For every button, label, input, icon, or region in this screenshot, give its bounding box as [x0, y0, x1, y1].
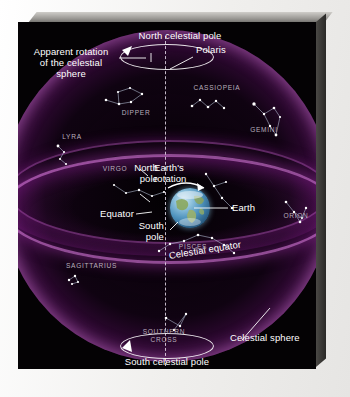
figure-root: Apparent rotation of the celestial spher… — [0, 0, 350, 397]
label-earth: Earth — [232, 202, 255, 213]
constellation-label-cassiopeia: CASSIOPEIA — [186, 84, 248, 92]
label-equator: Equator — [72, 208, 134, 219]
constellation-label-lyra: LYRA — [52, 133, 92, 141]
constellation-label-southern-cross: SOUTHERN CROSS — [132, 328, 196, 344]
label-south-celestial-pole: South celestial pole — [82, 356, 252, 367]
label-polaris: Polaris — [196, 44, 226, 55]
constellation-label-orion: ORION — [276, 212, 316, 220]
label-earths-rotation: Earth's rotation — [154, 162, 214, 184]
diagram-panel: Apparent rotation of the celestial spher… — [18, 22, 316, 369]
label-north-celestial-pole: North celestial pole — [110, 30, 250, 41]
frame-bevel-right — [316, 14, 326, 367]
constellation-label-virgo: VIRGO — [94, 165, 136, 173]
constellation-label-pisces: PISCES — [170, 243, 216, 251]
constellation-label-gemini: GEMINI — [242, 126, 286, 134]
label-south-pole: South pole — [110, 220, 164, 242]
label-apparent-rotation: Apparent rotation of the celestial spher… — [22, 46, 120, 79]
constellation-label-dipper: DIPPER — [112, 109, 160, 117]
constellation-label-sagittarius: SAGITTARIUS — [66, 262, 142, 270]
label-celestial-sphere: Celestial sphere — [230, 332, 300, 343]
